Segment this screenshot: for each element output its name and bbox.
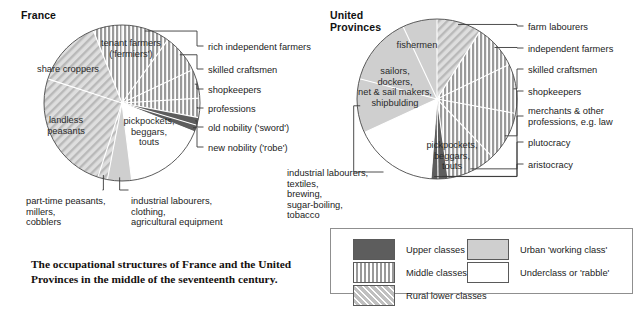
legend-rural-lower: Rural lower classes bbox=[353, 285, 487, 306]
farm-labourers-label: farm labourers bbox=[528, 22, 588, 33]
chart-title-france: France bbox=[21, 10, 56, 22]
old-nobility-label: old nobility ('sword') bbox=[208, 123, 289, 134]
shopkeepers-label: shopkeepers bbox=[208, 85, 261, 96]
legend-urban-working-text: Urban 'working class' bbox=[520, 245, 607, 255]
legend-upper-classes-text: Upper classes bbox=[406, 245, 465, 255]
part-time-peasants-label: part-time peasants, millers, cobblers bbox=[26, 196, 106, 228]
figure-root: France United Provinces tenant farmers (… bbox=[0, 0, 640, 335]
skilled-craftsmen-label: skilled craftsmen bbox=[208, 65, 277, 76]
pickpockets-up-label: pickpockets, beggars, touts bbox=[419, 140, 485, 172]
figure-caption: The occupational structures of France an… bbox=[31, 257, 331, 286]
sailors-dockers-label: sailors, dockers, net & sail makers, shi… bbox=[343, 66, 447, 108]
new-nobility-label: new nobility ('robe') bbox=[208, 143, 288, 154]
independent-farmers-label: independent farmers bbox=[528, 44, 613, 55]
legend-rural-lower-text: Rural lower classes bbox=[406, 291, 487, 301]
landless-peasants-label: landless peasants bbox=[38, 115, 94, 136]
legend-rural-lower-swatch bbox=[353, 285, 395, 306]
industrial-labourers-up-label: industrial labourers, textiles, brewing,… bbox=[287, 168, 368, 221]
legend-urban-working-swatch bbox=[467, 239, 509, 260]
merchants-label: merchants & other professions, e.g. law bbox=[528, 106, 613, 127]
legend-urban-working: Urban 'working class' bbox=[467, 239, 607, 260]
legend-upper-classes-swatch bbox=[353, 239, 395, 260]
leader-line bbox=[495, 47, 523, 48]
legend-underclass-text: Underclass or 'rabble' bbox=[520, 268, 609, 278]
rich-independent-farmers-label: rich independent farmers bbox=[208, 42, 311, 53]
legend-upper-classes: Upper classes bbox=[353, 239, 465, 260]
legend-underclass: Underclass or 'rabble' bbox=[467, 262, 609, 283]
leader-line bbox=[196, 121, 203, 127]
shopkeepers-up-label: shopkeepers bbox=[528, 87, 581, 98]
chart-title-united-provinces: United Provinces bbox=[330, 10, 381, 33]
fishermen-label: fishermen bbox=[384, 40, 450, 51]
legend-middle-classes-text: Middle classes bbox=[406, 268, 467, 278]
legend-panel: Upper classesMiddle classesRural lower c… bbox=[330, 228, 633, 294]
skilled-craftsmen-up-label: skilled craftsmen bbox=[528, 65, 597, 76]
legend-underclass-swatch bbox=[467, 262, 509, 283]
aristocracy-label: aristocracy bbox=[528, 160, 573, 171]
share-croppers-label: share croppers bbox=[29, 64, 107, 75]
pickpockets-label: pickpockets, beggars, touts bbox=[116, 116, 182, 148]
legend-middle-classes-swatch bbox=[353, 262, 395, 283]
legend-middle-classes: Middle classes bbox=[353, 262, 467, 283]
plutocracy-label: plutocracy bbox=[528, 138, 570, 149]
industrial-labourers-fr-label: industrial labourers, clothing, agricult… bbox=[131, 196, 222, 228]
tenant-farmers-label: tenant farmers ('fermiers') bbox=[93, 38, 169, 59]
professions-label: professions bbox=[208, 104, 256, 115]
